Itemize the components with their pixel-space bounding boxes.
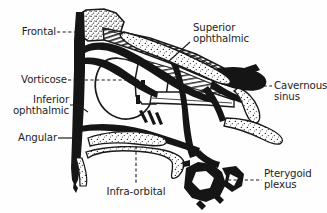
label-inferior-ophthalmic-line2: ophthalmic (0, 105, 69, 116)
label-cavernous-sinus-line2: sinus (274, 91, 300, 102)
label-cavernous-sinus-line1: Cavernous (274, 80, 327, 91)
label-frontal: Frontal (0, 26, 56, 37)
label-inferior-ophthalmic-line1: Inferior (0, 94, 69, 105)
label-infra-orbital: Infra-orbital (96, 186, 176, 197)
label-pterygoid-plexus-line2: plexus (264, 179, 297, 190)
label-angular: Angular (0, 132, 57, 143)
label-vorticose: Vorticose (0, 74, 67, 85)
label-superior-ophthalmic-line1: Superior (193, 22, 235, 33)
pterygoid-plexus-mesh (182, 160, 244, 210)
label-superior-ophthalmic-line2: ophthalmic (193, 33, 249, 44)
label-pterygoid-plexus-line1: Pterygoid (264, 168, 312, 179)
figure-canvas: Frontal Vorticose Inferior ophthalmic An… (0, 0, 327, 213)
